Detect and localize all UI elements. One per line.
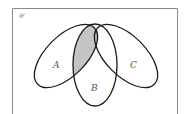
set-c-label: C [130, 60, 137, 70]
universe-label: 𝒰 [17, 12, 26, 20]
set-a-label: A [52, 60, 60, 70]
set-b-label: B [90, 83, 98, 93]
venn-diagram: 𝒰 A B C [0, 0, 189, 114]
